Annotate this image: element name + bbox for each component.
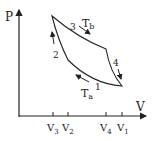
arrow-process-4 xyxy=(118,69,121,79)
label-ta: Ta xyxy=(81,87,93,101)
x-axis-label: V xyxy=(135,100,145,114)
tick-v1: V1 xyxy=(116,122,129,136)
y-axis-label: P xyxy=(5,10,13,24)
label-tb: Tb xyxy=(82,17,94,31)
tick-v3: V3 xyxy=(46,122,59,136)
tick-v2: V2 xyxy=(61,122,74,136)
arrow-process-1 xyxy=(76,75,89,82)
label-3: 3 xyxy=(70,22,76,32)
tick-v4: V4 xyxy=(99,122,112,136)
arrow-process-2 xyxy=(52,32,54,44)
pv-diagram: P V V3 V2 V4 V1 3 2 4 1 Tb Ta xyxy=(0,0,152,141)
label-1: 1 xyxy=(95,82,101,92)
label-2: 2 xyxy=(53,50,59,60)
label-4: 4 xyxy=(113,58,119,68)
